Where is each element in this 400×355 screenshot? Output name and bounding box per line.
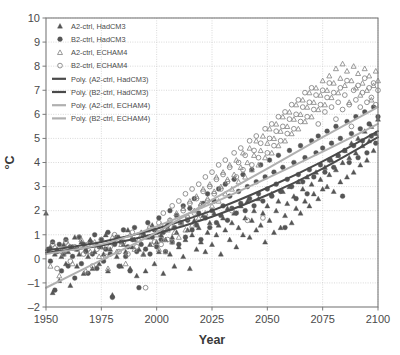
data-point — [183, 235, 188, 240]
data-point — [207, 225, 212, 230]
data-point — [365, 150, 370, 155]
x-tick-label: 2075 — [310, 313, 334, 325]
data-point — [92, 232, 97, 237]
data-point — [95, 266, 100, 271]
y-tick-label: 3 — [34, 180, 40, 192]
data-point — [261, 199, 266, 204]
y-tick-label: 0 — [34, 253, 40, 265]
data-point — [329, 141, 334, 146]
x-tick-label: 2000 — [144, 313, 168, 325]
data-point — [190, 228, 195, 233]
y-tick-label: 2 — [34, 204, 40, 216]
y-axis: –2–1012345678910 — [28, 12, 46, 313]
x-tick-label: 2025 — [200, 313, 224, 325]
data-point — [168, 208, 173, 213]
data-point — [276, 153, 281, 158]
data-point — [176, 242, 181, 247]
legend-label[interactable]: B2-ctrl, HadCM3 — [71, 35, 126, 44]
data-point — [294, 196, 299, 201]
data-point — [58, 37, 63, 42]
data-point — [367, 122, 372, 127]
data-point — [59, 269, 64, 274]
data-point — [252, 203, 257, 208]
x-tick-label: 1950 — [34, 313, 58, 325]
data-point — [347, 160, 352, 165]
data-point — [52, 288, 57, 293]
chart-figure: –2–1012345678910195019752000202520502075… — [0, 0, 400, 355]
y-tick-label: 7 — [34, 84, 40, 96]
data-point — [298, 143, 303, 148]
data-point — [57, 242, 62, 247]
data-point — [214, 220, 219, 225]
chart-svg: –2–1012345678910195019752000202520502075… — [0, 0, 400, 355]
data-point — [157, 216, 162, 221]
data-point — [79, 261, 84, 266]
legend-label[interactable]: Poly. (A2-ctrl, HadCM3) — [71, 75, 148, 84]
data-point — [187, 206, 192, 211]
legend-label[interactable]: Poly. (A2-ctrl, ECHAM4) — [71, 101, 150, 110]
data-point — [311, 175, 316, 180]
y-axis-title: °C — [3, 155, 17, 169]
y-tick-label: 1 — [34, 229, 40, 241]
y-tick-label: –2 — [28, 301, 40, 313]
data-point — [106, 230, 111, 235]
data-point — [287, 148, 292, 153]
y-tick-label: 5 — [34, 132, 40, 144]
data-point — [145, 220, 150, 225]
data-point — [148, 252, 153, 257]
x-axis: 1950197520002025205020752100 — [34, 307, 390, 325]
data-point — [320, 146, 325, 151]
y-tick-label: –1 — [28, 277, 40, 289]
data-point — [139, 242, 144, 247]
legend-label[interactable]: B2-ctrl, ECHAM4 — [71, 61, 127, 70]
x-tick-label: 1975 — [89, 313, 113, 325]
data-point — [132, 225, 137, 230]
data-point — [121, 228, 126, 233]
data-point — [338, 136, 343, 141]
x-axis-title: Year — [199, 333, 226, 347]
data-point — [117, 264, 122, 269]
x-tick-label: 2100 — [366, 313, 390, 325]
legend-label[interactable]: Poly. (B2-ctrl, HadCM3) — [71, 88, 148, 97]
data-point — [358, 126, 363, 131]
data-point — [72, 276, 77, 281]
y-tick-label: 6 — [34, 108, 40, 120]
data-point — [128, 269, 133, 274]
data-point — [349, 131, 354, 136]
data-point — [137, 285, 142, 290]
x-tick-label: 2050 — [255, 313, 279, 325]
legend-label[interactable]: A2-ctrl, ECHAM4 — [71, 48, 127, 57]
data-point — [340, 194, 345, 199]
data-point — [373, 141, 378, 146]
data-point — [143, 247, 148, 252]
data-point — [283, 225, 288, 230]
y-tick-label: 9 — [34, 36, 40, 48]
data-point — [331, 165, 336, 170]
y-tick-label: 10 — [28, 12, 40, 24]
data-point — [305, 191, 310, 196]
data-point — [234, 211, 239, 216]
legend-label[interactable]: A2-ctrl, HadCM3 — [71, 22, 126, 31]
data-point — [225, 218, 230, 223]
legend-label[interactable]: Poly. (B2-ctrl, ECHAM4) — [71, 114, 150, 123]
data-point — [323, 170, 328, 175]
data-point — [110, 295, 115, 300]
data-point — [356, 155, 361, 160]
y-tick-label: 8 — [34, 60, 40, 72]
data-point — [199, 237, 204, 242]
data-point — [243, 208, 248, 213]
data-point — [70, 254, 75, 259]
y-tick-label: 4 — [34, 156, 40, 168]
